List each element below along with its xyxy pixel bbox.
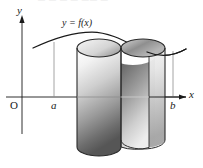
x-axis-label: x — [189, 88, 194, 100]
tick-label-b: b — [170, 99, 176, 111]
cylindrical-shell — [77, 39, 167, 156]
shell-method-figure: — — — — —— — — [0, 0, 203, 168]
curve-label: y = f(x) — [62, 17, 92, 28]
y-axis-arrowhead — [19, 15, 24, 23]
tick-label-a: a — [51, 99, 57, 111]
y-axis-label: y — [17, 4, 22, 16]
figure-canvas — [0, 0, 203, 168]
shell-outer-front-wall — [77, 48, 121, 156]
origin-label: O — [10, 99, 18, 111]
